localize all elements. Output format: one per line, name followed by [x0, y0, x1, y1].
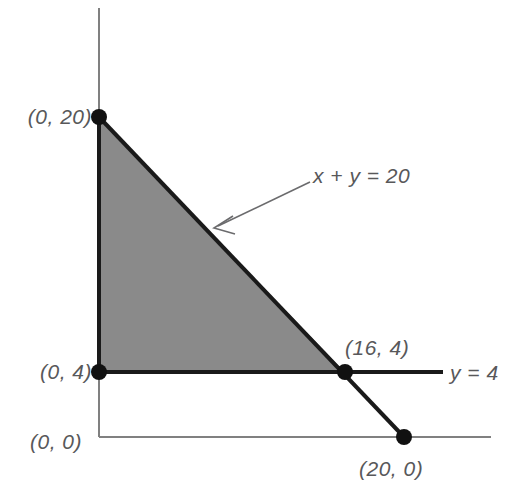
- point-0-20: [91, 109, 107, 125]
- label-point-0-4: (0, 4): [40, 360, 92, 384]
- label-line-x-plus-y-equals-20: x + y = 20: [313, 164, 410, 188]
- figure-canvas: (0, 20) (0, 4) (16, 4) (20, 0) (0, 0) x …: [0, 0, 523, 499]
- label-line-y-equals-4: y = 4: [450, 361, 499, 385]
- label-point-16-4: (16, 4): [345, 336, 409, 360]
- point-16-4: [337, 364, 353, 380]
- label-point-0-20: (0, 20): [28, 105, 92, 129]
- point-20-0: [396, 429, 412, 445]
- label-origin: (0, 0): [30, 430, 82, 454]
- annotation-arrow-line: [218, 182, 310, 226]
- point-0-4: [91, 364, 107, 380]
- label-point-20-0: (20, 0): [359, 457, 423, 481]
- graph-svg: [0, 0, 523, 499]
